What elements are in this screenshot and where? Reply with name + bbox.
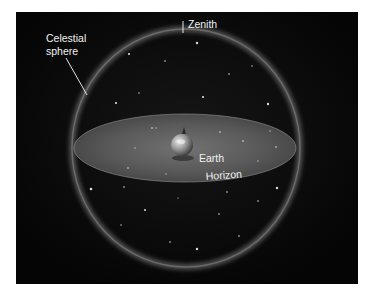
- celestial-sphere-label-line1: Celestial: [46, 32, 86, 44]
- celestial-sphere-diagram: Zenith Celestial sphere Earth Horizon: [16, 12, 358, 284]
- horizon-label: Horizon: [205, 167, 242, 182]
- zenith-label: Zenith: [188, 18, 217, 30]
- earth-label: Earth: [199, 152, 224, 164]
- diagram-frame: Zenith Celestial sphere Earth Horizon: [16, 12, 358, 284]
- celestial-sphere-label-line2: sphere: [46, 45, 78, 57]
